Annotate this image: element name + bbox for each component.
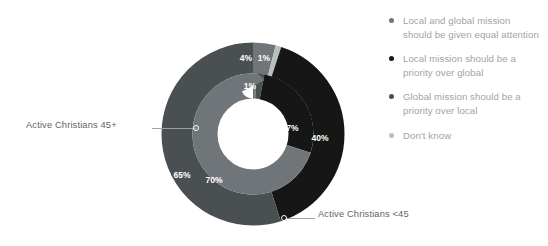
leader-line-under45 bbox=[287, 218, 315, 219]
chart-page: 4% 1% 40% 65% 1% 2% 27% 70% Active Chris… bbox=[0, 0, 548, 246]
callout-active-christians-45plus: Active Christians 45+ bbox=[26, 120, 117, 130]
callout-active-christians-under45: Active Christians <45 bbox=[318, 209, 409, 219]
legend-label: Local mission should be a priority over … bbox=[403, 52, 541, 79]
inner-label-equal: 1% bbox=[244, 81, 257, 91]
legend-item-global-priority[interactable]: Global mission should be a priority over… bbox=[389, 90, 541, 117]
inner-label-local: 27% bbox=[281, 123, 298, 133]
leader-dot-under45 bbox=[281, 215, 287, 221]
legend-bullet-icon bbox=[389, 133, 394, 138]
leader-line-45plus bbox=[152, 128, 196, 129]
chart-legend: Local and global mission should be given… bbox=[389, 14, 541, 153]
legend-bullet-icon bbox=[389, 56, 394, 61]
legend-item-local-priority[interactable]: Local mission should be a priority over … bbox=[389, 52, 541, 79]
outer-label-equal: 4% bbox=[240, 53, 253, 63]
legend-bullet-icon bbox=[389, 94, 394, 99]
outer-label-local: 40% bbox=[311, 133, 328, 143]
legend-label: Local and global mission should be given… bbox=[403, 14, 541, 41]
inner-label-global: 70% bbox=[205, 175, 222, 185]
outer-label-dont-know: 1% bbox=[258, 53, 271, 63]
legend-label: Global mission should be a priority over… bbox=[403, 90, 541, 117]
legend-bullet-icon bbox=[389, 18, 394, 23]
inner-label-global-small: 2% bbox=[248, 97, 261, 107]
outer-label-global: 65% bbox=[173, 170, 190, 180]
leader-dot-45plus bbox=[193, 125, 199, 131]
legend-item-equal-attention[interactable]: Local and global mission should be given… bbox=[389, 14, 541, 41]
legend-label: Don't know bbox=[403, 129, 451, 143]
legend-item-dont-know[interactable]: Don't know bbox=[389, 129, 541, 143]
